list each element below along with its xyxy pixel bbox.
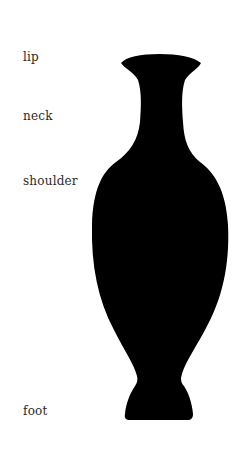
vase-silhouette	[0, 0, 234, 452]
vase-shape	[92, 54, 228, 420]
